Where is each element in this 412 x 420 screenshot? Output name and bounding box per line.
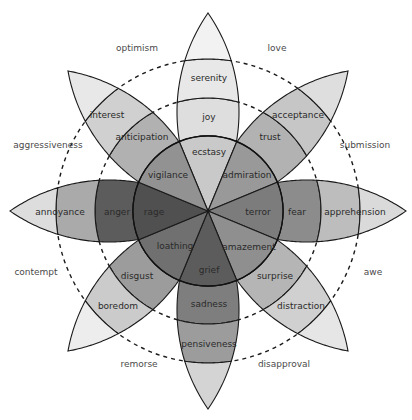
label-boredom: boredom <box>98 301 138 311</box>
label-distraction: distraction <box>277 301 325 311</box>
dyad-label-optimism: optimism <box>116 43 158 53</box>
dyad-label-disapproval: disapproval <box>258 359 310 369</box>
label-surprise: surprise <box>257 271 294 281</box>
label-rage: rage <box>144 207 165 217</box>
label-anticipation: anticipation <box>115 132 168 142</box>
emotion-wheel-svg: ecstasyjoyserenityadmirationtrustaccepta… <box>0 0 412 420</box>
label-sadness: sadness <box>191 299 228 309</box>
dyad-label-submission: submission <box>340 140 390 150</box>
dyad-label-aggressiveness: aggressiveness <box>13 140 83 150</box>
emotion-wheel-diagram: ecstasyjoyserenityadmirationtrustaccepta… <box>0 0 412 420</box>
label-terror: terror <box>245 207 271 217</box>
label-serenity: serenity <box>191 73 228 83</box>
band-sadness-tip <box>185 361 232 409</box>
label-anger: anger <box>104 207 130 217</box>
label-pensiveness: pensiveness <box>181 339 237 349</box>
label-acceptance: acceptance <box>272 110 324 120</box>
label-apprehension: apprehension <box>324 207 385 217</box>
label-annoyance: annoyance <box>35 207 85 217</box>
dyad-label-awe: awe <box>364 267 383 277</box>
label-trust: trust <box>259 132 281 142</box>
label-ecstasy: ecstasy <box>192 147 227 157</box>
dyad-label-contempt: contempt <box>14 267 58 277</box>
dyad-label-remorse: remorse <box>120 359 158 369</box>
dyad-label-love: love <box>268 43 287 53</box>
label-admiration: admiration <box>223 170 272 180</box>
label-grief: grief <box>199 265 220 275</box>
label-amazement: amazement <box>222 242 276 252</box>
label-joy: joy <box>201 112 216 122</box>
label-loathing: loathing <box>157 241 194 251</box>
label-interest: interest <box>90 110 125 120</box>
band-joy-tip <box>185 13 232 61</box>
label-fear: fear <box>288 207 306 217</box>
label-disgust: disgust <box>121 271 154 281</box>
label-vigilance: vigilance <box>148 170 189 180</box>
